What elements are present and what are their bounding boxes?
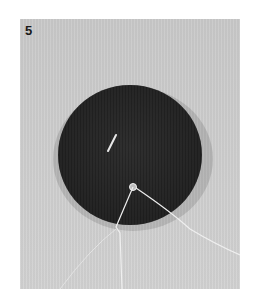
instruction-photo: 5 — [20, 19, 240, 289]
photo-illustration — [20, 19, 240, 289]
thread-strand — [60, 229, 116, 289]
